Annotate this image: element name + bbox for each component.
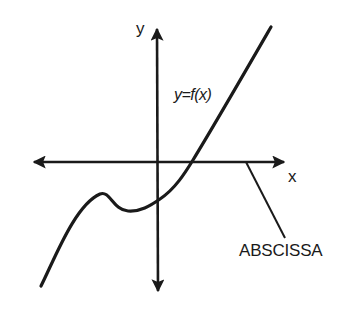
y-axis [157, 29, 158, 291]
x-axis-label: x [288, 168, 297, 185]
abscissa-leader-line [246, 162, 285, 238]
abscissa-label: ABSCISSA [239, 242, 322, 259]
y-axis-label: y [136, 20, 145, 37]
function-graph-diagram [0, 0, 360, 322]
function-label: y=f(x) [174, 87, 211, 103]
